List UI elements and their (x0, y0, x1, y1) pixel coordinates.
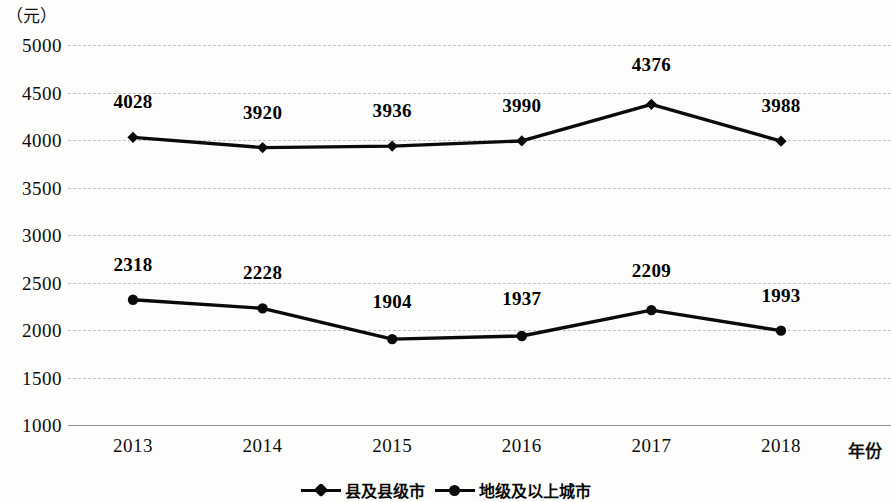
data-point-label: 2209 (632, 261, 671, 280)
y-axis-unit-caption: （元） (6, 2, 57, 27)
y-axis-tick-label: 3500 (0, 178, 62, 197)
legend-item[interactable]: 县及县级市 (301, 478, 425, 502)
data-point-label: 3936 (373, 101, 412, 120)
data-point-marker (387, 140, 398, 151)
series-line (133, 300, 781, 339)
data-point-label: 1993 (761, 286, 800, 305)
y-axis-tick-label: 5000 (0, 36, 62, 55)
legend-item[interactable]: 地级及以上城市 (435, 478, 591, 502)
chart-legend: 县及县级市地级及以上城市 (0, 478, 891, 502)
y-axis-tick-label: 4000 (0, 131, 62, 150)
x-axis-tick-label: 2013 (113, 436, 153, 455)
legend-item-label: 地级及以上城市 (479, 478, 591, 502)
data-point-label: 3920 (243, 103, 282, 122)
x-axis-tick-label: 2016 (502, 436, 542, 455)
series-line (133, 104, 781, 147)
x-axis-title: 年份 (848, 437, 882, 462)
axis-baseline (68, 425, 891, 426)
data-point-marker (646, 305, 656, 315)
data-point-marker (257, 303, 267, 313)
data-point-label: 2228 (243, 263, 282, 282)
data-point-label: 1904 (373, 292, 412, 311)
data-point-marker (776, 325, 786, 335)
y-axis-tick-label: 1000 (0, 416, 62, 435)
data-point-label: 4028 (113, 92, 152, 111)
y-axis-tick-label: 3000 (0, 226, 62, 245)
plot-area: 4028392039363990437639882318222819041937… (68, 45, 891, 425)
diamond-marker (301, 484, 341, 496)
line-chart-figure: （元） 500045004000350030002500200015001000… (0, 0, 891, 502)
y-axis-tick-label: 2500 (0, 273, 62, 292)
x-axis-tick-label: 2015 (372, 436, 412, 455)
x-axis-tick-label: 2014 (243, 436, 283, 455)
x-axis-tick-label: 2017 (631, 436, 671, 455)
data-point-marker (517, 331, 527, 341)
data-point-marker (127, 132, 138, 143)
data-point-marker (775, 136, 786, 147)
data-point-marker (387, 334, 397, 344)
data-point-marker (257, 142, 268, 153)
y-axis-tick-label: 1500 (0, 368, 62, 387)
y-axis-tick-label: 2000 (0, 321, 62, 340)
data-point-label: 4376 (632, 55, 671, 74)
x-axis-tick-label: 2018 (761, 436, 801, 455)
data-point-marker (128, 295, 138, 305)
circle-marker (435, 484, 475, 496)
y-axis-tick-label: 4500 (0, 83, 62, 102)
data-point-marker (516, 135, 527, 146)
data-point-marker (646, 99, 657, 110)
y-axis-tick-labels: 500045004000350030002500200015001000 (0, 45, 62, 425)
data-point-label: 1937 (502, 289, 541, 308)
data-point-label: 3988 (761, 96, 800, 115)
data-point-label: 3990 (502, 96, 541, 115)
x-axis-tick-labels: 201320142015201620172018 (68, 436, 891, 466)
legend-item-label: 县及县级市 (345, 478, 425, 502)
data-point-label: 2318 (113, 255, 152, 274)
